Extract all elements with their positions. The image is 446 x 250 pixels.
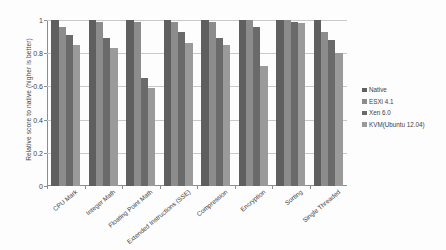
x-axis-label: Integer Math [84,188,116,216]
bar [216,38,223,186]
bar-group [235,20,273,186]
bar-groups [47,20,347,186]
bar-group [122,20,160,186]
bar [298,23,305,186]
bar [96,22,103,186]
x-axis-labels: CPU MarkInteger MathFloating Point MathE… [47,188,347,248]
bar [148,88,155,186]
bar [164,20,171,186]
y-tick-label: 0.2 [33,149,43,156]
bar [110,48,117,186]
legend-item: KVM(Ubuntu 12.04) [362,119,446,131]
bar [103,38,110,186]
y-tick-label: 0.8 [33,50,43,57]
bar [126,20,133,186]
bar-group [160,20,198,186]
x-axis-label: Single Threaded [301,188,341,223]
legend-item: ESXi 4.1 [362,96,446,108]
bar-group [272,20,310,186]
bar [209,22,216,186]
x-axis-label: Encryption [238,188,266,213]
legend-swatch-icon [362,88,367,93]
bar [276,20,283,186]
bar [66,35,73,186]
legend-swatch-icon [362,99,367,104]
bar [51,20,58,186]
y-tick-label: 0 [39,183,43,190]
bar [253,27,260,186]
legend-item: Xen 6.0 [362,107,446,119]
bar [178,32,185,186]
legend-item: Native [362,84,446,96]
bar [201,20,208,186]
legend-label: Xen 6.0 [369,109,391,116]
x-axis-label: Sorting [283,188,303,206]
legend-label: Native [369,86,387,93]
bar [185,43,192,186]
bar [321,32,328,186]
bar-group [85,20,123,186]
bar [314,20,321,186]
legend-label: ESXi 4.1 [369,98,394,105]
bar-group [197,20,235,186]
legend-label: KVM(Ubuntu 12.04) [369,121,425,128]
plot-area: 00.20.40.60.81 [47,20,347,186]
x-axis-label: Compression [195,188,228,218]
x-axis-label: Extended Instructions (SSE) [125,188,191,245]
bar [328,40,335,186]
bar [260,66,267,186]
legend-swatch-icon [362,122,367,127]
y-tick-label: 0.6 [33,83,43,90]
bar [59,27,66,186]
bar-group [310,20,348,186]
bar [239,20,246,186]
bar [223,45,230,186]
bar [73,45,80,186]
bar [171,22,178,186]
chart-legend: NativeESXi 4.1Xen 6.0KVM(Ubuntu 12.04) [362,84,446,130]
bar [89,20,96,186]
bar [291,22,298,186]
bar-chart: Relative score to native (higher is bett… [0,0,446,250]
bar-group [47,20,85,186]
y-tick-label: 0.4 [33,116,43,123]
bar [134,22,141,186]
bar [335,53,342,186]
legend-swatch-icon [362,111,367,116]
y-tick-label: 1 [39,17,43,24]
y-axis-title: Relative score to native (higher is bett… [25,10,32,190]
bar [141,78,148,186]
bar [246,20,253,186]
x-axis-label: CPU Mark [51,188,78,212]
bar [284,20,291,186]
